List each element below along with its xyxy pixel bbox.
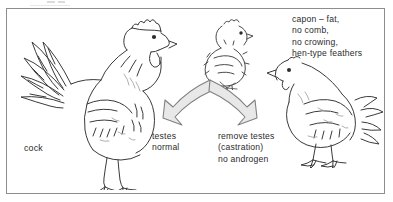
right-branch-caption: remove testes (castration) no androgen bbox=[218, 131, 275, 165]
scan-artifact bbox=[30, 5, 70, 6]
left-branch-caption: testes normal bbox=[152, 131, 179, 154]
curved-arrow-left-icon bbox=[163, 80, 211, 125]
capon-caption: capon – fat, no comb, no crowing, hen-ty… bbox=[292, 14, 362, 60]
figure-panel: capon – fat, no comb, no crowing, hen-ty… bbox=[0, 0, 393, 202]
curved-arrow-right-icon bbox=[209, 80, 257, 125]
branch-arrows bbox=[140, 78, 280, 136]
scan-artifact bbox=[58, 1, 65, 3]
cock-caption: cock bbox=[24, 143, 43, 154]
scan-artifact bbox=[47, 1, 55, 3]
